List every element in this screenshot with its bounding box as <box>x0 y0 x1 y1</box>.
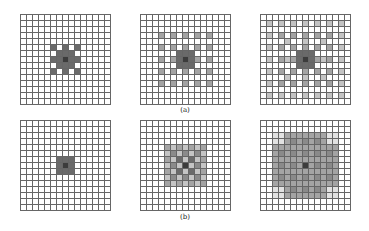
grid-panel-a2 <box>140 14 231 105</box>
caption-a: (a) <box>165 106 205 114</box>
grid-cell <box>105 205 111 211</box>
grid-cell <box>225 99 231 105</box>
grid-panel-b1 <box>20 120 111 211</box>
grid-panel-a1 <box>20 14 111 105</box>
grid-cell <box>225 205 231 211</box>
grid-panel-b2 <box>140 120 231 211</box>
caption-b: (b) <box>165 213 205 221</box>
grid-cell <box>345 99 351 105</box>
grid-panel-a3 <box>260 14 351 105</box>
grid-panel-b3 <box>260 120 351 211</box>
grid-cell <box>345 205 351 211</box>
grid-cell <box>105 99 111 105</box>
